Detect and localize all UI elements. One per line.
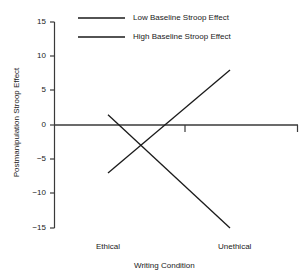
plot-area bbox=[0, 0, 308, 277]
y-tick-label-15: 15 bbox=[24, 18, 46, 26]
y-tick-label-minus-15: −15 bbox=[24, 224, 46, 232]
x-tick-label-ethical: Ethical bbox=[96, 243, 120, 251]
y-tick-label-0: 0 bbox=[24, 121, 46, 129]
legend-label-high-baseline: High Baseline Stroop Effect bbox=[133, 33, 231, 41]
y-axis-title: Postmanipulation Stroop Effect bbox=[12, 63, 21, 183]
chart-figure: Postmanipulation Stroop Effect 15 10 5 0… bbox=[0, 0, 308, 277]
x-axis-title: Writing Condition bbox=[134, 262, 195, 270]
y-tick-label-5: 5 bbox=[24, 86, 46, 94]
legend-label-low-baseline: Low Baseline Stroop Effect bbox=[133, 14, 229, 22]
y-tick-label-10: 10 bbox=[24, 52, 46, 60]
series-line-low-baseline bbox=[108, 115, 230, 228]
y-tick-label-minus-10: −10 bbox=[24, 189, 46, 197]
series-line-high-baseline bbox=[108, 70, 230, 173]
x-tick-label-unethical: Unethical bbox=[218, 243, 251, 251]
y-axis-ticks bbox=[50, 22, 55, 228]
y-tick-label-minus-5: −5 bbox=[24, 155, 46, 163]
x-axis-ticks bbox=[185, 125, 298, 132]
